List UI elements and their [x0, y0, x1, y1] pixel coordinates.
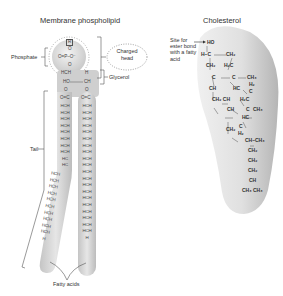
cholesterol-title: Cholesterol — [203, 16, 241, 25]
phosphate-group: O=P–O⁻ — [58, 55, 76, 60]
left-fatty-acid-chain: HCH HCH HCH HCH HCH HCH HCH HCH HC HC — [58, 103, 72, 169]
tail-label: Tail — [30, 146, 38, 152]
fatty-acids-label: Fatty acids — [53, 281, 80, 287]
phospholipid-title: Membrane phospholipid — [40, 16, 120, 25]
glycerol-label: Glycerol — [109, 74, 129, 80]
phosphate-bracket — [41, 48, 48, 66]
diagram-shapes — [0, 0, 283, 296]
right-fatty-acid-chain: HCH HCH HCH HCH HCH HCH HCH HCH HCH HCH … — [80, 103, 94, 241]
r-group: R — [66, 39, 73, 46]
hydroxyl-group: HO — [207, 40, 215, 45]
phosphate-label: Phosphate — [11, 54, 37, 60]
charged-head-label: Charged head — [115, 48, 139, 62]
ester-site-annotation: Site for ester bond with a fatty acid — [170, 37, 196, 62]
